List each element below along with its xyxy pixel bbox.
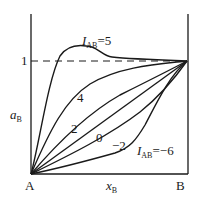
label-iab-4: 4 — [77, 91, 84, 104]
y-axis-label: aB — [10, 108, 22, 124]
label-iab-neg6-sub: AB — [141, 151, 152, 160]
endpoint-b-label: B — [176, 179, 185, 192]
y-tick-1: 1 — [21, 54, 28, 67]
x-axis-label-sub: B — [112, 186, 117, 195]
label-iab-0: 0 — [96, 131, 103, 144]
endpoint-a-label: A — [25, 179, 34, 192]
label-iab-neg6: IAB=−6 — [137, 144, 174, 160]
label-iab-5-suffix: =5 — [97, 33, 111, 48]
label-iab-5-sub: AB — [86, 41, 97, 50]
label-iab-5: IAB=5 — [82, 34, 111, 50]
label-iab-2: 2 — [71, 122, 78, 135]
label-iab-neg2: −2 — [112, 139, 126, 152]
diagram-canvas — [0, 0, 199, 203]
label-iab-neg6-suffix: =−6 — [152, 143, 173, 158]
y-axis-label-sub: B — [17, 115, 22, 124]
x-axis-label: xB — [106, 179, 117, 195]
